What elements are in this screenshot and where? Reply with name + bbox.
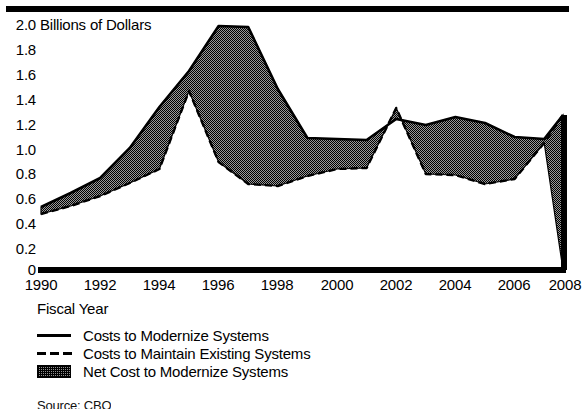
legend-item-net-cost: Net Cost to Modernize Systems [35, 363, 435, 380]
source-note: Source: CBO [37, 399, 111, 409]
x-axis-title: Fiscal Year [37, 300, 108, 317]
legend-label-net-cost: Net Cost to Modernize Systems [83, 363, 288, 380]
y-tick-0.2: 0.2 [2, 241, 36, 256]
x-tick-1990: 1990 [16, 276, 66, 293]
y-tick-1.8: 1.8 [2, 42, 36, 57]
y-axis-title: Billions of Dollars [40, 17, 151, 32]
shaded-swatch-icon [35, 364, 75, 379]
x-tick-1998: 1998 [252, 276, 302, 293]
x-tick-2000: 2000 [312, 276, 362, 293]
x-tick-2004: 2004 [430, 276, 480, 293]
y-tick-1.6: 1.6 [2, 67, 36, 82]
legend-label-costs-to-modernize: Costs to Modernize Systems [83, 327, 269, 344]
y-tick-0.4: 0.4 [2, 216, 36, 231]
chart-legend: Costs to Modernize Systems Costs to Main… [35, 327, 435, 381]
legend-item-costs-to-modernize: Costs to Modernize Systems [35, 327, 435, 344]
top-rule-divider [6, 6, 569, 12]
y-tick-1.0: 1.0 [2, 142, 36, 157]
x-tick-2006: 2006 [489, 276, 539, 293]
y-tick-0.6: 0.6 [2, 191, 36, 206]
y-tick-1.4: 1.4 [2, 92, 36, 107]
y-tick-0: 0 [2, 262, 36, 277]
solid-line-icon [35, 328, 75, 343]
net-cost-area [41, 26, 563, 270]
y-tick-0.8: 0.8 [2, 166, 36, 181]
chart-svg [0, 14, 575, 276]
dashed-line-icon [35, 346, 75, 361]
x-tick-2002: 2002 [371, 276, 421, 293]
plot-area [0, 14, 575, 276]
legend-label-costs-to-maintain: Costs to Maintain Existing Systems [83, 345, 310, 362]
x-tick-1996: 1996 [193, 276, 243, 293]
y-tick-2.0: 2.0 [2, 17, 36, 32]
x-tick-2008: 2008 [540, 276, 586, 293]
x-axis-tick-labels: 1990 1992 1994 1996 1998 2000 2002 2004 … [0, 276, 575, 296]
x-tick-1994: 1994 [134, 276, 184, 293]
y-tick-1.2: 1.2 [2, 117, 36, 132]
legend-item-costs-to-maintain: Costs to Maintain Existing Systems [35, 345, 435, 362]
x-tick-1992: 1992 [75, 276, 125, 293]
